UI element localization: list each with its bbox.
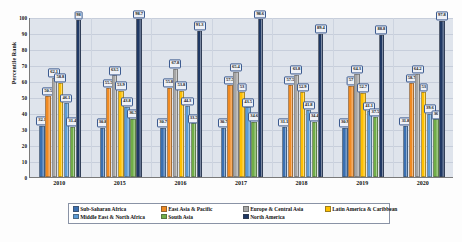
legend-row-2: Middle East & North AfricaSouth AsiaNort… — [73, 214, 386, 220]
x-axis-labels: 2010201520162017201820192020 — [29, 180, 453, 192]
legend-label: East Asia & Pacific — [168, 206, 212, 212]
bar-2018-series-1[interactable]: 57.5 — [288, 85, 293, 177]
y-tick-10: 10 — [2, 159, 27, 165]
bar-label: 63.8 — [290, 66, 302, 75]
bar-2016-series-1[interactable]: 55.8 — [167, 88, 172, 177]
legend-item-5[interactable]: South Asia — [161, 214, 193, 220]
bar-2015-series-0[interactable]: 30.8 — [100, 128, 105, 177]
bar-2019-series-4[interactable]: 41.1 — [367, 111, 372, 177]
bar-label: 64.3 — [351, 65, 363, 74]
legend-swatch-icon — [243, 214, 249, 220]
legend-label: Middle East & North Africa — [80, 214, 145, 220]
bar-2010-series-2[interactable]: 62.1 — [52, 78, 57, 177]
bar-2020-series-0[interactable]: 31.8 — [403, 126, 408, 177]
bar-label: 65.4 — [230, 63, 242, 72]
bar-2020-series-6[interactable]: 97.8 — [439, 21, 444, 177]
bar-2010-series-6[interactable]: 98 — [76, 20, 81, 177]
bar-2020-series-4[interactable]: 39.6 — [427, 114, 432, 177]
bar-label: 52.9 — [297, 83, 309, 92]
y-tick-70: 70 — [2, 63, 27, 69]
legend-label: Europe & Central Asia — [250, 206, 303, 212]
bar-2018-series-6[interactable]: 89.4 — [318, 34, 323, 177]
bar-2020-series-5[interactable]: 36 — [433, 119, 438, 177]
bar-label: 63.5 — [109, 66, 121, 75]
bar-2016-series-0[interactable]: 30.7 — [160, 128, 165, 177]
x-tick-2018: 2018 — [296, 180, 308, 186]
y-tick-60: 60 — [2, 79, 27, 85]
bar-label: 52.7 — [357, 84, 369, 93]
bar-2019-series-0[interactable]: 30.9 — [342, 128, 347, 177]
legend-item-0[interactable]: Sub-Saharan Africa — [73, 206, 126, 212]
bar-2019-series-1[interactable]: 57 — [348, 86, 353, 177]
bar-label: 53.8 — [175, 82, 187, 91]
bar-label: 53 — [419, 83, 428, 92]
chart-legend: Sub-Saharan AfricaEast Asia & PacificEur… — [68, 203, 390, 224]
bar-2017-series-0[interactable]: 30.7 — [221, 128, 226, 177]
bar-2015-series-2[interactable]: 63.5 — [112, 75, 117, 177]
y-axis-ticks: 0102030405060708090100 — [0, 18, 29, 178]
y-tick-20: 20 — [2, 143, 27, 149]
bar-label: 58.8 — [54, 74, 66, 83]
bar-label: 46.1 — [60, 94, 72, 103]
x-tick-2016: 2016 — [174, 180, 186, 186]
x-tick-2020: 2020 — [417, 180, 429, 186]
bar-group-2015: 30.855.563.553.943.836.598.7 — [91, 18, 152, 177]
legend-swatch-icon — [161, 206, 167, 212]
legend-label: South Asia — [168, 214, 193, 220]
bar-2019-series-5[interactable]: 37.5 — [373, 117, 378, 177]
bar-2017-series-5[interactable]: 34.6 — [251, 122, 256, 177]
legend-swatch-icon — [73, 214, 79, 220]
bar-2019-series-6[interactable]: 88.8 — [379, 35, 384, 177]
bar-2018-series-5[interactable]: 34.4 — [312, 122, 317, 177]
y-tick-50: 50 — [2, 95, 27, 101]
bar-label: 88.8 — [375, 26, 387, 35]
bar-group-2010: 32.150.562.158.846.131.498 — [30, 18, 91, 177]
legend-item-4[interactable]: Middle East & North Africa — [73, 214, 145, 220]
legend-item-3[interactable]: Latin America & Caribbean — [325, 206, 397, 212]
legend-label: North America — [250, 214, 285, 220]
bar-label: 43.5 — [242, 98, 254, 107]
legend-item-2[interactable]: Europe & Central Asia — [243, 206, 303, 212]
bar-2010-series-1[interactable]: 50.5 — [45, 96, 50, 177]
legend-item-6[interactable]: North America — [243, 214, 285, 220]
bar-group-2018: 31.157.563.852.941.834.489.4 — [272, 18, 333, 177]
x-tick-2017: 2017 — [235, 180, 247, 186]
bar-2017-series-6[interactable]: 98.6 — [258, 19, 263, 177]
legend-swatch-icon — [161, 214, 167, 220]
bar-label: 44.3 — [181, 97, 193, 106]
bar-2010-series-0[interactable]: 32.1 — [39, 126, 44, 177]
bar-2018-series-0[interactable]: 31.1 — [282, 127, 287, 177]
bar-label: 43.8 — [121, 98, 133, 107]
legend-swatch-icon — [73, 206, 79, 212]
bar-2010-series-4[interactable]: 46.1 — [64, 103, 69, 177]
bar-2017-series-1[interactable]: 57.5 — [227, 85, 232, 177]
y-tick-100: 100 — [2, 15, 27, 21]
bar-label: 64.2 — [412, 65, 424, 74]
bar-2015-series-1[interactable]: 55.5 — [106, 88, 111, 177]
y-tick-30: 30 — [2, 127, 27, 133]
legend-swatch-icon — [243, 206, 249, 212]
bar-label: 41.8 — [303, 101, 315, 110]
y-tick-40: 40 — [2, 111, 27, 117]
legend-swatch-icon — [325, 206, 331, 212]
bar-2016-series-5[interactable]: 33.5 — [191, 123, 196, 177]
bar-label: 67.8 — [169, 59, 181, 68]
bar-2020-series-1[interactable]: 58.7 — [409, 83, 414, 177]
x-tick-2010: 2010 — [53, 180, 65, 186]
plot-inner: 32.150.562.158.846.131.49830.855.563.553… — [30, 18, 453, 177]
bar-group-2017: 30.757.565.45343.534.698.6 — [212, 18, 273, 177]
legend-label: Latin America & Caribbean — [332, 206, 397, 212]
bar-2010-series-5[interactable]: 31.4 — [70, 127, 75, 177]
bar-group-2020: 31.858.764.25339.63697.8 — [393, 18, 454, 177]
y-tick-80: 80 — [2, 47, 27, 53]
bar-label: 53 — [238, 83, 247, 92]
bar-2016-series-6[interactable]: 91.3 — [197, 31, 202, 177]
bar-label: 53.9 — [115, 82, 127, 91]
bar-2015-series-5[interactable]: 36.5 — [130, 119, 135, 177]
bar-label: 97.8 — [436, 11, 448, 20]
bar-group-2019: 30.95764.352.741.137.588.8 — [333, 18, 394, 177]
bar-label: 91.3 — [194, 22, 206, 31]
bar-label: 98.6 — [254, 10, 266, 19]
legend-item-1[interactable]: East Asia & Pacific — [161, 206, 212, 212]
bar-2015-series-6[interactable]: 98.7 — [136, 19, 141, 177]
